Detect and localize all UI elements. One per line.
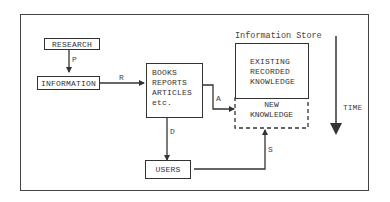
existing-knowledge-node: EXISTING RECORDED KNOWLEDGE: [235, 43, 309, 99]
new-knowledge-line: KNOWLEDGE: [250, 110, 293, 120]
edge-label-r: R: [119, 73, 124, 82]
new-knowledge-node: NEW KNOWLEDGE: [235, 100, 308, 120]
edge-label-d: D: [170, 127, 175, 136]
users-label: USERS: [155, 165, 180, 174]
publications-node: BOOKS REPORTS ARTICLES etc.: [146, 63, 203, 118]
existing-line: RECORDED: [250, 67, 308, 77]
publications-line: BOOKS: [152, 68, 202, 78]
existing-line: KNOWLEDGE: [250, 77, 308, 87]
research-node: RESEARCH: [44, 38, 100, 50]
new-knowledge-line: NEW: [264, 100, 278, 110]
research-label: RESEARCH: [52, 40, 92, 49]
publications-line: REPORTS: [152, 78, 202, 88]
edge-s: [194, 130, 265, 169]
users-node: USERS: [145, 160, 191, 179]
information-label: INFORMATION: [41, 79, 96, 88]
edge-label-s: S: [268, 145, 273, 154]
publications-line: etc.: [152, 98, 202, 108]
existing-line: EXISTING: [250, 57, 308, 67]
edge-label-p: P: [72, 55, 77, 64]
store-title: Information Store: [235, 31, 322, 41]
edge-label-a: A: [216, 94, 221, 103]
information-node: INFORMATION: [37, 76, 100, 90]
publications-line: ARTICLES: [152, 88, 202, 98]
time-label: TIME: [343, 103, 362, 112]
